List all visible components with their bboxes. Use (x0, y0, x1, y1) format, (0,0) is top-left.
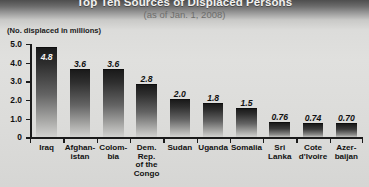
y-axis-tick (26, 100, 31, 101)
y-axis-label: 1.0 (0, 114, 22, 124)
bar-value-label: 0.76 (263, 112, 296, 122)
y-axis-tick (26, 63, 31, 64)
x-axis-category-label: Azer- baijan (327, 144, 366, 161)
y-axis-tick (26, 44, 31, 45)
bar-value-label: 1.8 (197, 93, 230, 103)
bar-value-label: 3.6 (63, 59, 96, 69)
y-axis-label: 0 (0, 132, 22, 142)
bar-value-label: 3.6 (97, 59, 130, 69)
y-axis-label: 3.0 (0, 76, 22, 86)
bar-7[interactable] (269, 122, 290, 137)
x-axis-tick (330, 139, 331, 143)
x-axis-tick (97, 139, 98, 143)
bar-2[interactable] (103, 69, 124, 137)
bar-value-label: 2.0 (163, 89, 196, 99)
y-axis-label: 4.0 (0, 58, 22, 68)
x-axis-tick (263, 139, 264, 143)
bar-value-label: 0.74 (296, 113, 329, 123)
bar-1[interactable] (70, 69, 91, 137)
x-axis-tick (130, 139, 131, 143)
bar-4[interactable] (170, 99, 191, 137)
bar-value-label: 1.5 (230, 98, 263, 108)
chart-title: Top Ten Sources of Displaced Persons (0, 0, 369, 8)
chart-subtitle: (as of Jan. 1, 2008) (0, 9, 369, 20)
x-axis-tick (362, 139, 363, 143)
bar-3[interactable] (136, 84, 157, 137)
x-axis-tick (163, 139, 164, 143)
y-axis-label: 2.0 (0, 95, 22, 105)
bar-value-label: 2.8 (130, 74, 163, 84)
bar-5[interactable] (203, 103, 224, 138)
bar-6[interactable] (236, 108, 257, 137)
y-axis-tick (26, 119, 31, 120)
bar-value-label: 0.70 (330, 113, 363, 123)
y-axis-unit-note: (No. displaced in millions) (7, 26, 101, 35)
x-axis-tick (296, 139, 297, 143)
y-axis-tick (26, 81, 31, 82)
displaced-persons-bar-chart: Top Ten Sources of Displaced Persons (as… (0, 0, 369, 187)
bar-8[interactable] (303, 123, 324, 138)
y-axis-label: 5.0 (0, 39, 22, 49)
x-axis-tick (30, 139, 31, 143)
plot-area: 01.02.03.04.05.04.8Iraq3.6Afghan- istan3… (30, 44, 363, 139)
bar-9[interactable] (336, 123, 357, 137)
bar-value-label: 4.8 (30, 52, 63, 62)
